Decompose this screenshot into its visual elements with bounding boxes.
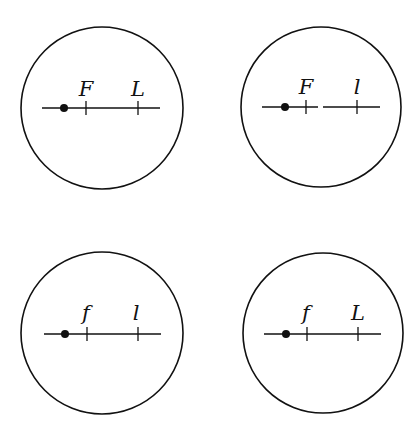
point-dot (282, 330, 290, 338)
panel-bottom-right: f L (243, 253, 403, 413)
tick-label: f (80, 301, 93, 325)
tick-label: l (133, 301, 140, 325)
tick-label: F (298, 75, 315, 99)
point-dot (61, 330, 69, 338)
tick-label: F (78, 77, 95, 101)
boundary-circle (243, 253, 403, 413)
point-dot (60, 104, 68, 112)
boundary-circle (21, 252, 183, 414)
tick-label: L (350, 301, 365, 325)
tick-label: f (300, 301, 313, 325)
panel-top-right: F l (241, 27, 401, 187)
tick-label: l (354, 75, 361, 99)
panel-top-left: F L (21, 27, 183, 189)
panel-bottom-left: f l (21, 252, 183, 414)
diagram-canvas: F L F l f l f L (0, 0, 417, 427)
point-dot (281, 103, 289, 111)
tick-label: L (130, 77, 145, 101)
